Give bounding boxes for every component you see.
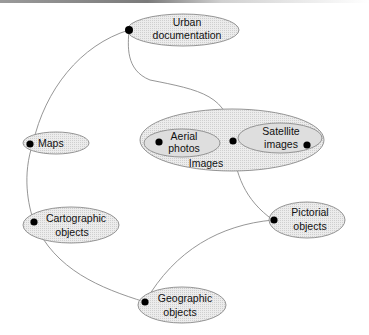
- aerial-dot: [155, 138, 162, 145]
- cartographic-label-2: objects: [55, 226, 88, 238]
- pictorial-label-2: objects: [293, 220, 326, 232]
- node-maps[interactable]: Maps: [23, 132, 89, 154]
- node-urban-documentation[interactable]: Urban documentation: [125, 14, 239, 46]
- node-satellite-images[interactable]: Satellite images: [238, 123, 322, 153]
- pictorial-dot: [270, 216, 277, 223]
- diagram-canvas: Urban documentation Maps Images Aerial p…: [0, 0, 369, 335]
- geographic-label-2: objects: [163, 306, 196, 318]
- maps-dot: [26, 140, 33, 147]
- edge-maps-cartographic: [27, 143, 34, 222]
- geographic-label-1: Geographic: [158, 292, 212, 304]
- urban-label-2: documentation: [153, 29, 222, 41]
- node-pictorial-objects[interactable]: Pictorial objects: [269, 202, 345, 238]
- cartographic-dot: [30, 218, 37, 225]
- satellite-label-2: images: [264, 138, 298, 150]
- geographic-dot: [141, 298, 148, 305]
- node-cartographic-objects[interactable]: Cartographic objects: [23, 207, 119, 243]
- satellite-label-1: Satellite: [262, 125, 300, 137]
- aerial-label-1: Aerial: [171, 130, 198, 142]
- node-aerial-photos[interactable]: Aerial photos: [144, 129, 220, 157]
- urban-dot: [125, 26, 133, 34]
- aerial-label-2: photos: [168, 142, 200, 154]
- images-dot: [229, 137, 236, 144]
- edge-urban-maps: [33, 30, 129, 143]
- satellite-dot: [303, 141, 310, 148]
- cartographic-label-1: Cartographic: [46, 212, 106, 224]
- maps-label: Maps: [38, 137, 64, 149]
- pictorial-label-1: Pictorial: [291, 206, 328, 218]
- images-label: Images: [189, 157, 223, 169]
- urban-label-1: Urban: [173, 16, 202, 28]
- node-geographic-objects[interactable]: Geographic objects: [138, 287, 226, 323]
